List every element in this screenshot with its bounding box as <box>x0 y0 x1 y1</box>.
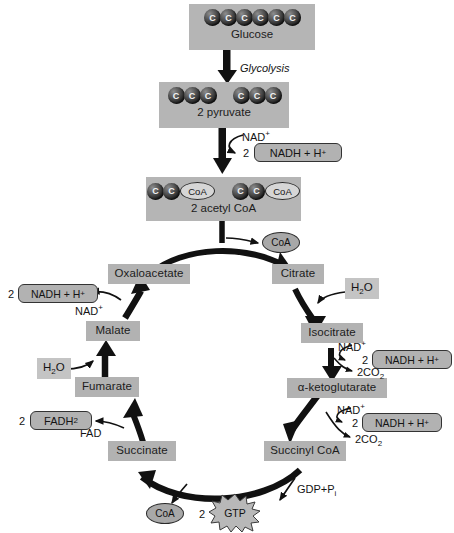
gdp-subscript: i <box>335 489 337 498</box>
nadh-box-akg: NADH + H+ <box>362 413 442 432</box>
nadh-box-malate: NADH + H+ <box>18 284 98 303</box>
cycle-coa-oval: CoA <box>146 503 184 524</box>
water-o: O <box>364 281 373 293</box>
succinyl-coa-box: Succinyl CoA <box>264 441 346 461</box>
nad-text: NAD <box>242 131 265 143</box>
nadh-text: NADH + H <box>270 147 322 159</box>
co2-subscript: 2 <box>378 439 382 448</box>
nadh-text: NADH + H <box>375 417 424 429</box>
carbon-ball: C <box>252 9 269 26</box>
carbon-ball: C <box>168 87 185 104</box>
carbon-ball: C <box>233 87 250 104</box>
nadh-coefficient-akg: 2 <box>352 417 358 429</box>
co2-label-isocitrate: 2CO2 <box>357 366 384 381</box>
co2-subscript: 2 <box>380 372 384 381</box>
pyruvate-group: C C C <box>233 87 281 104</box>
coa-oval: CoA <box>265 182 300 200</box>
pyruvate-panel: C C C C C C 2 pyruvate <box>159 82 289 128</box>
gdp-text: GDP+P <box>297 483 335 495</box>
fadh2-subscript: 2 <box>73 416 77 425</box>
nadh-coefficient-isocitrate: 2 <box>362 354 368 366</box>
nad-text: NAD <box>337 404 360 416</box>
carbon-ball: C <box>200 87 217 104</box>
oxaloacetate-box: Oxaloacetate <box>108 264 190 284</box>
coa-oval: CoA <box>180 182 215 200</box>
nad-text: NAD <box>338 341 361 353</box>
glucose-carbons: C C C C C C <box>204 9 300 26</box>
acetyl-group: C C CoA <box>147 182 215 200</box>
nadh-coefficient-malate: 2 <box>8 288 14 300</box>
nadh-charge: + <box>321 148 326 157</box>
co2-text: 2CO <box>357 366 380 378</box>
carbon-ball: C <box>147 183 164 200</box>
glucose-panel: C C C C C C Glucose <box>189 4 315 50</box>
acetyl-group: C C CoA <box>232 182 300 200</box>
nadh-coefficient-pyruvate: 2 <box>243 147 249 159</box>
gdp-label: GDP+Pi <box>297 483 336 498</box>
carbon-ball: C <box>249 87 266 104</box>
carbon-ball: C <box>284 9 301 26</box>
acetyl-coa-carbons: C C CoA C C CoA <box>147 182 300 200</box>
nad-label-pyruvate: NAD+ <box>242 129 270 143</box>
nad-label-malate: NAD+ <box>75 303 103 317</box>
acetyl-coa-label: 2 acetyl CoA <box>191 202 256 214</box>
co2-label-akg: 2CO2 <box>355 433 382 448</box>
co2-text: 2CO <box>355 433 378 445</box>
water-o: O <box>56 361 65 373</box>
nad-charge: + <box>265 129 270 138</box>
malate-box: Malate <box>86 321 140 341</box>
fadh2-text: FADH <box>44 415 73 427</box>
carbon-ball: C <box>220 9 237 26</box>
gtp-coefficient: 2 <box>199 508 205 520</box>
carbon-ball: C <box>236 9 253 26</box>
citrate-box: Citrate <box>272 264 324 284</box>
carbon-ball: C <box>204 9 221 26</box>
glycolysis-label: Glycolysis <box>240 62 290 74</box>
pyruvate-group: C C C <box>168 87 216 104</box>
pyruvate-carbons: C C C C C C <box>168 87 281 104</box>
nad-text: NAD <box>75 305 98 317</box>
nadh-charge: + <box>434 355 439 364</box>
carbon-ball: C <box>248 183 265 200</box>
fadh2-box: FADH2 <box>30 411 92 430</box>
nadh-text: NADH + H <box>385 354 434 366</box>
acetyl-coa-panel: C C CoA C C CoA 2 acetyl CoA <box>146 177 301 221</box>
nadh-charge: + <box>424 418 429 427</box>
carbon-ball: C <box>265 87 282 104</box>
fumarate-box: Fumarate <box>75 377 139 397</box>
pyruvate-label: 2 pyruvate <box>197 106 251 118</box>
nad-charge: + <box>361 339 366 348</box>
carbon-ball: C <box>163 183 180 200</box>
carbon-ball: C <box>184 87 201 104</box>
water-chip-citrate: H2O <box>345 278 379 299</box>
nadh-text: NADH + H <box>31 288 80 300</box>
carbon-ball: C <box>232 183 249 200</box>
nad-charge: + <box>98 303 103 312</box>
gtp-label: GTP <box>224 507 246 519</box>
nad-label-akg: NAD+ <box>337 402 365 416</box>
succinate-box: Succinate <box>108 441 176 461</box>
water-chip-fumarate: H2O <box>37 358 71 379</box>
released-coa-oval: CoA <box>262 232 300 253</box>
carbon-ball: C <box>268 9 285 26</box>
nadh-box-pyruvate: NADH + H+ <box>254 143 342 162</box>
gtp-burst: GTP <box>209 493 261 533</box>
nadh-charge: + <box>80 289 85 298</box>
nad-label-isocitrate: NAD+ <box>338 339 366 353</box>
fadh2-coefficient: 2 <box>19 415 25 427</box>
nad-charge: + <box>360 402 365 411</box>
glucose-label: Glucose <box>231 28 273 40</box>
